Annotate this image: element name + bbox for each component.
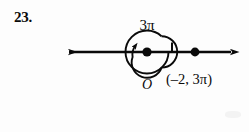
- origin-point: [142, 47, 151, 56]
- polar-coordinate-diagram: 3π O (–2, 3π): [0, 0, 249, 132]
- point-coordinate-label: (–2, 3π): [166, 71, 212, 88]
- plotted-point: [191, 48, 200, 57]
- angle-label: 3π: [139, 17, 155, 33]
- origin-label: O: [142, 77, 152, 92]
- scan-artifact: [225, 111, 241, 118]
- figure-root: 23. 3π O: [0, 0, 249, 132]
